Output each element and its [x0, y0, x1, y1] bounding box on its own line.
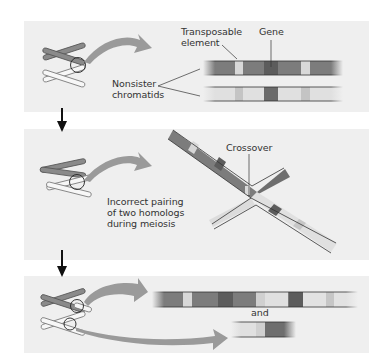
- recombinant-chromatid-short: [231, 321, 296, 338]
- label-transposable-element: Transposable element: [181, 27, 242, 48]
- curved-arrow-icon: [84, 152, 152, 182]
- leader-line: [158, 86, 200, 96]
- caption-line: of two homologs: [107, 207, 184, 218]
- label-line: element: [181, 38, 242, 49]
- transposable-element-band: [235, 61, 243, 75]
- label-and: and: [251, 308, 269, 319]
- down-arrow-icon: [57, 250, 67, 277]
- long-curved-arrow-icon: [76, 328, 228, 350]
- diagram-canvas: [0, 0, 388, 363]
- label-nonsister-chromatids: Nonsister chromatids: [112, 79, 164, 100]
- label-line: Nonsister: [112, 79, 164, 90]
- mispaired-homologs-icon: [40, 158, 92, 197]
- resulting-chromosomes-icon: [40, 288, 92, 336]
- label-crossover: Crossover: [226, 143, 272, 154]
- recombinant-chromatid-long: [152, 291, 358, 308]
- label-gene: Gene: [259, 27, 284, 38]
- leader-line: [158, 69, 200, 86]
- chromatid-top: [203, 60, 343, 76]
- caption-incorrect-pairing: Incorrect pairing of two homologs during…: [107, 196, 184, 229]
- label-line: chromatids: [112, 90, 164, 101]
- down-arrow-icon: [57, 108, 67, 132]
- caption-line: during meiosis: [107, 218, 184, 229]
- curved-arrow-icon: [84, 34, 152, 64]
- transposable-element-band: [301, 61, 310, 75]
- chromatid-bottom: [203, 86, 343, 102]
- homolog-pair-icon: [42, 42, 86, 87]
- gene-band: [264, 87, 278, 101]
- caption-line: Incorrect pairing: [107, 196, 184, 207]
- label-line: Transposable: [181, 27, 242, 38]
- curved-arrow-icon: [84, 278, 148, 306]
